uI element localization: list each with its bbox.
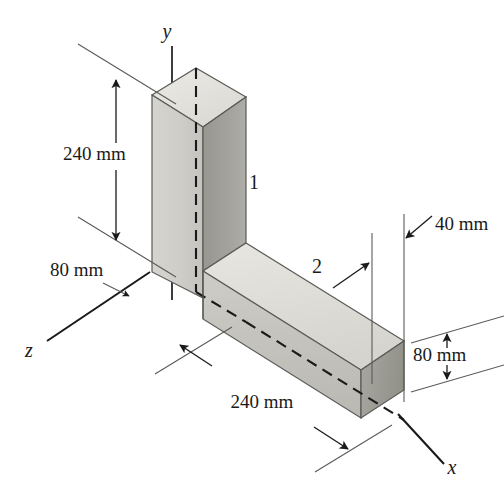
- height-ext-line-top: [78, 44, 176, 104]
- depth-dimension-left-label: 80 mm: [50, 259, 104, 280]
- height-dimension-right-label: 80 mm: [413, 344, 467, 365]
- width-leader-outer: [406, 216, 432, 238]
- figure-root: 240 mm 80 mm 240 mm 40 mm: [0, 0, 504, 500]
- z-axis-line: [47, 272, 150, 341]
- part-label-1: 1: [249, 171, 259, 193]
- y-axis-label: y: [161, 20, 172, 43]
- z-axis-label: z: [24, 339, 33, 361]
- depth-dimension-left-group: 80 mm: [50, 259, 129, 296]
- vertical-prism-right-face: [203, 97, 246, 271]
- height-right-ext-top: [411, 316, 504, 343]
- height-right-ext-bottom: [411, 365, 504, 392]
- part-label-2: 2: [312, 255, 322, 277]
- length-dimension-label: 240 mm: [231, 391, 294, 412]
- width-dimension-label: 40 mm: [435, 213, 489, 234]
- x-axis-label: x: [447, 456, 457, 478]
- length-ext-line-right: [315, 425, 392, 472]
- length-dimension-line-right: [314, 427, 348, 449]
- length-ext-line-left: [155, 327, 232, 374]
- width-leader-inner: [333, 263, 369, 288]
- height-dimension-right-group: 80 mm: [411, 316, 504, 392]
- x-axis-line: [398, 414, 444, 464]
- isometric-bracket-diagram: 240 mm 80 mm 240 mm 40 mm: [0, 0, 504, 500]
- height-dimension-label: 240 mm: [63, 143, 126, 164]
